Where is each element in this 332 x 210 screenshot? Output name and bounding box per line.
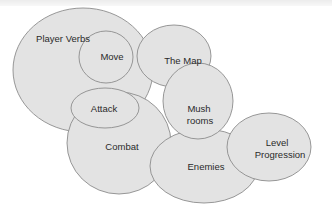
label-move: Move <box>100 51 123 62</box>
label-attack: Attack <box>91 103 118 114</box>
node-mushrooms <box>163 63 233 139</box>
label-combat: Combat <box>105 141 139 152</box>
bubble-diagram: Player Verbs Move The Map Attack Combat … <box>0 0 332 210</box>
label-player-verbs: Player Verbs <box>36 33 90 44</box>
label-the-map: The Map <box>164 55 202 66</box>
label-mushrooms-line2: rooms <box>187 115 214 126</box>
label-enemies: Enemies <box>188 161 225 172</box>
label-level-progression-line2: Progression <box>255 149 306 160</box>
label-level-progression-line1: Level <box>266 137 289 148</box>
label-mushrooms-line1: Mush <box>187 103 210 114</box>
